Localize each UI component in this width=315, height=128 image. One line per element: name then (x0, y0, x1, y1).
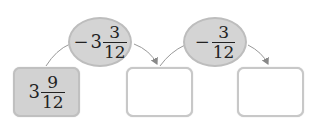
arrow-2-head (248, 45, 268, 64)
start-value-denominator: 12 (41, 94, 65, 111)
start-value-fraction: 9 12 (41, 74, 65, 111)
operation-1-denominator: 12 (103, 44, 127, 61)
operation-1-sign: − (73, 33, 88, 51)
operation-2-numerator: 3 (217, 24, 230, 41)
operation-2-denominator: 12 (212, 44, 236, 61)
operation-oval-2: − 3 12 (183, 17, 247, 67)
arrow-1-head (134, 44, 157, 64)
operation-oval-1: − 3 3 12 (68, 17, 132, 67)
operation-1-numerator: 3 (108, 24, 121, 41)
operation-1-fraction: 3 12 (103, 24, 127, 61)
start-value-expression: 3 9 12 (28, 74, 64, 111)
operation-1-whole: 3 (91, 33, 102, 51)
arrow-1-tail (46, 44, 70, 66)
answer-box-2[interactable] (237, 67, 304, 117)
answer-box-1[interactable] (126, 67, 193, 117)
start-value-numerator: 9 (46, 74, 59, 91)
start-value-box: 3 9 12 (13, 67, 80, 117)
operation-2-fraction: 3 12 (212, 24, 236, 61)
operation-2-expression: − 3 12 (195, 24, 236, 61)
operation-2-sign: − (195, 33, 210, 51)
operation-1-expression: − 3 3 12 (73, 24, 126, 61)
start-value-whole: 3 (28, 83, 39, 101)
arrow-2-tail (160, 45, 185, 66)
